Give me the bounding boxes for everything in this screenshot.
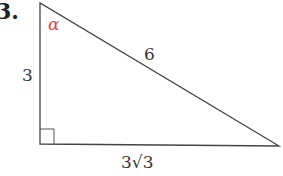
right-angle-marker [40, 129, 54, 144]
side-hypotenuse-label: 6 [144, 46, 155, 63]
right-triangle [0, 0, 283, 176]
angle-alpha-label: α [48, 16, 59, 33]
side-horizontal-label: 3√3 [121, 154, 153, 171]
side-vertical-label: 3 [22, 67, 33, 84]
